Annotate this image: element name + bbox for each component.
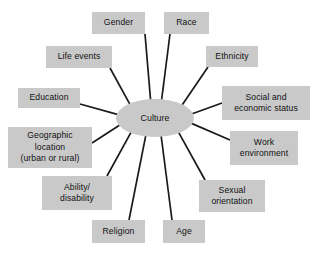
node-label-gender: Gender [104, 17, 133, 29]
node-label-work: Work environment [240, 137, 288, 160]
node-box-social[interactable]: Social and economic status [222, 86, 310, 120]
node-box-work[interactable]: Work environment [230, 131, 298, 165]
node-label-lifeevents: Life events [58, 51, 101, 63]
spoke-line-gender [145, 34, 151, 100]
node-box-geographic[interactable]: Geographic location (urban or rural) [8, 127, 92, 168]
node-box-lifeevents[interactable]: Life events [46, 46, 112, 68]
node-label-age: Age [176, 226, 192, 238]
node-box-sexual[interactable]: Sexual orientation [199, 180, 265, 212]
spoke-line-social [192, 103, 222, 114]
node-label-religion: Religion [103, 226, 135, 238]
center-node-label: Culture [140, 113, 169, 123]
center-node-culture[interactable]: Culture [116, 99, 194, 137]
spoke-line-lifeevents [110, 68, 130, 104]
culture-diagram: Culture GenderRaceEthnicitySocial and ec… [0, 0, 313, 255]
node-box-education[interactable]: Education [18, 88, 80, 108]
node-label-education: Education [29, 92, 68, 104]
node-label-social: Social and economic status [234, 92, 298, 115]
node-label-ability: Ability/ disability [60, 182, 94, 205]
spoke-line-ethnicity [182, 67, 208, 105]
spoke-line-religion [129, 136, 146, 220]
node-box-age[interactable]: Age [163, 220, 205, 243]
node-box-race[interactable]: Race [164, 12, 209, 34]
node-label-race: Race [176, 17, 196, 29]
spoke-line-work [191, 123, 230, 140]
node-box-religion[interactable]: Religion [92, 220, 145, 243]
spoke-line-education [80, 104, 118, 115]
node-label-ethnicity: Ethnicity [215, 51, 248, 63]
spoke-line-race [162, 34, 170, 100]
spoke-line-ability [107, 132, 131, 176]
node-box-gender[interactable]: Gender [92, 12, 145, 34]
spoke-line-age [161, 136, 172, 220]
node-box-ability[interactable]: Ability/ disability [42, 176, 112, 210]
spoke-line-sexual [179, 132, 206, 180]
node-box-ethnicity[interactable]: Ethnicity [206, 46, 258, 67]
spoke-line-geographic [92, 125, 120, 143]
node-label-geographic: Geographic location (urban or rural) [21, 130, 80, 165]
node-label-sexual: Sexual orientation [211, 185, 252, 208]
